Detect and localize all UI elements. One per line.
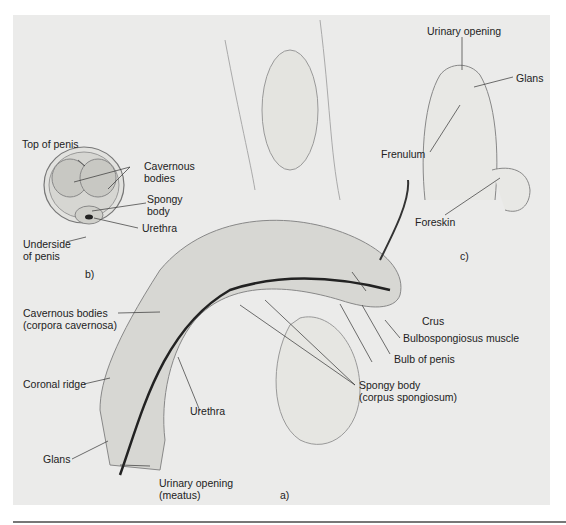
external-view-drawing	[423, 37, 530, 215]
label-underside-of-penis: Underside	[23, 238, 71, 251]
panel-label-b: b)	[85, 268, 94, 281]
label-foreskin: Foreskin	[415, 216, 455, 229]
label-cavernous-bodies-b: Cavernous	[144, 160, 195, 173]
bottom-rule	[13, 521, 566, 523]
label-glans-a: Glans	[43, 453, 70, 466]
label-corpora-cavernosa: (corpora cavernosa)	[23, 319, 117, 332]
label-urinary-opening-a: Urinary opening	[159, 477, 233, 490]
label-underside-of-penis-2: of penis	[23, 250, 60, 263]
sagittal-drawing	[72, 20, 408, 475]
label-urinary-opening-c: Urinary opening	[427, 25, 501, 38]
label-bulb-of-penis: Bulb of penis	[394, 353, 455, 366]
label-meatus: (meatus)	[159, 489, 200, 502]
label-spongy-body-b-2: body	[147, 205, 170, 218]
label-cavernous-bodies-a: Cavernous bodies	[23, 307, 108, 320]
panel-label-a: a)	[280, 489, 289, 502]
label-coronal-ridge: Coronal ridge	[23, 378, 86, 391]
label-bulbospongiosus-muscle: Bulbospongiosus muscle	[403, 332, 519, 345]
label-top-of-penis: Top of penis	[22, 138, 79, 151]
label-cavernous-bodies-b-2: bodies	[144, 172, 175, 185]
cross-section-drawing	[44, 147, 146, 242]
label-urethra-a: Urethra	[190, 405, 225, 418]
label-spongy-body-a: Spongy body	[359, 379, 420, 392]
label-frenulum: Frenulum	[381, 148, 425, 161]
anatomy-illustration	[0, 0, 566, 525]
label-corpus-spongiosum: (corpus spongiosum)	[359, 391, 457, 404]
label-glans-c: Glans	[516, 72, 543, 85]
label-crus: Crus	[422, 315, 444, 328]
label-spongy-body-b: Spongy	[147, 193, 183, 206]
label-urethra-b: Urethra	[142, 222, 177, 235]
panel-label-c: c)	[460, 250, 469, 263]
